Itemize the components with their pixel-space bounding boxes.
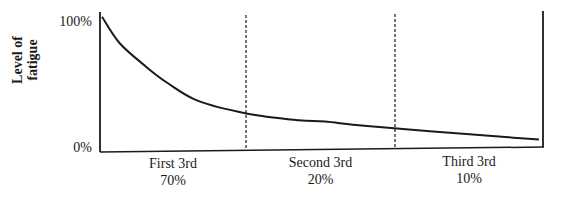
section-first: First 3rd 70% [100, 155, 246, 189]
x-axis [100, 147, 544, 152]
section-third: Third 3rd 10% [395, 153, 543, 187]
y-axis-label-line2: fatigue [25, 10, 40, 110]
section-second-value: 20% [246, 171, 395, 188]
section-third-label: Third 3rd [395, 153, 543, 170]
y-tick-0: 0% [32, 140, 92, 156]
y-axis-label-line1: Level of [10, 10, 25, 110]
y-axis-label: Level of fatigue [10, 10, 40, 110]
section-second: Second 3rd 20% [246, 154, 395, 188]
section-first-value: 70% [100, 172, 246, 189]
section-second-label: Second 3rd [246, 154, 395, 171]
y-tick-100: 100% [32, 14, 92, 30]
section-third-value: 10% [395, 170, 543, 187]
fatigue-chart: 100% 0% Level of fatigue First 3rd 70% S… [0, 0, 565, 199]
section-first-label: First 3rd [100, 155, 246, 172]
fatigue-curve [102, 17, 539, 140]
